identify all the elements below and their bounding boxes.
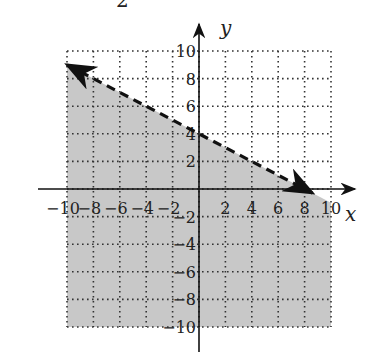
y-tick-label: −4 (172, 235, 196, 254)
y-tick-label: 10 (176, 42, 196, 61)
y-tick-label: −2 (172, 208, 196, 227)
y-tick-label: −8 (172, 290, 196, 309)
y-tick-label: −6 (172, 263, 196, 282)
x-tick-label: −4 (130, 199, 154, 218)
x-tick-label: 8 (300, 199, 310, 218)
x-tick-label: 6 (273, 199, 283, 218)
x-tick-label: −6 (104, 199, 128, 218)
y-tick-label: 6 (186, 97, 196, 116)
x-axis-label: x (345, 202, 356, 226)
x-tick-label: −8 (78, 199, 102, 218)
y-tick-label: −10 (162, 318, 196, 337)
y-tick-label: 2 (186, 152, 196, 171)
inequality-graph: xy−10−8−6−4−2246810108642−2−4−6−8−10 (0, 0, 372, 364)
x-tick-label: −10 (46, 199, 80, 218)
y-axis-label: y (219, 16, 232, 40)
x-tick-label: 10 (321, 199, 341, 218)
x-tick-label: 2 (220, 199, 230, 218)
x-tick-label: 4 (247, 199, 257, 218)
y-tick-label: 8 (186, 70, 196, 89)
